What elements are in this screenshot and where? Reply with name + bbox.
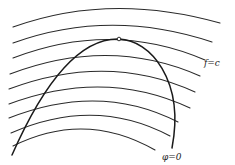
level-curve-1	[13, 8, 220, 27]
lagrange-diagram: f=c φ=0	[0, 0, 235, 165]
level-curve-3	[13, 39, 205, 60]
level-curve-5	[9, 71, 195, 92]
level-curve-label: f=c	[203, 58, 220, 68]
level-curve-9	[13, 129, 155, 150]
level-curve-6	[9, 87, 190, 108]
constraint-curve-label: φ=0	[162, 152, 182, 162]
constraint-curve-phi	[12, 39, 175, 155]
level-curve-2	[13, 25, 212, 43]
level-curve-8	[11, 115, 170, 136]
tangent-point	[117, 37, 121, 41]
level-curves-group	[9, 8, 220, 150]
level-curve-4	[10, 55, 200, 76]
